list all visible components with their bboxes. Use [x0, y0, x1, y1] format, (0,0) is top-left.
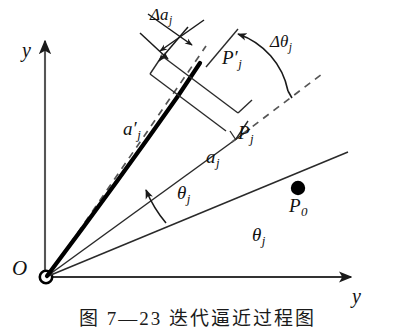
theta-upper-letter: θ [177, 182, 186, 203]
Pj-subscript: j [250, 131, 254, 146]
delta-theta-label: Δθj [270, 33, 292, 53]
origin-label: O [12, 258, 27, 279]
aj-subscript: j [216, 155, 220, 170]
axis-group [45, 41, 351, 277]
radius-line-Pj [238, 100, 252, 113]
aj-letter: a [206, 146, 216, 167]
theta-upper-subscript: j [187, 191, 191, 206]
delta-a-text: Δa [150, 5, 168, 24]
P0-letter: P [289, 195, 301, 216]
segment-a-prime-j-label: a′j [123, 119, 141, 142]
theta-j-arc [146, 190, 166, 223]
theta-lower-letter: θ [252, 224, 261, 245]
segment-a-j-label: aj [206, 147, 220, 170]
delta-theta-arc-tail [288, 91, 292, 98]
geometry-diagram [0, 0, 395, 327]
tick-at-Pj [230, 131, 236, 140]
angle-theta-j-lower-label: θj [252, 225, 265, 248]
point-P0-label: P0 [289, 196, 308, 219]
a-prime-subscript: j [137, 127, 141, 142]
figure-container: y y O Δaj Δθj P′j a′j Pj aj P0 θj θj 图 7… [0, 0, 395, 327]
point-P-prime-j-label: P′j [222, 48, 242, 71]
P-prime-letter: P [222, 47, 234, 68]
delta-a-arrow-bottom2 [140, 33, 168, 59]
y-axis-vertical-label: y [22, 40, 31, 60]
delta-a-subscript: j [169, 14, 172, 27]
a-prime-letter: a [123, 118, 133, 139]
P0-subscript: 0 [301, 204, 307, 219]
Pj-letter: P [238, 122, 250, 143]
P-prime-subscript: j [238, 56, 242, 71]
figure-caption: 图 7—23 迭代逼近过程图 [0, 303, 395, 327]
point-P0-marker [291, 181, 305, 195]
point-Pj-label: Pj [238, 123, 254, 146]
angle-theta-j-upper-label: θj [177, 183, 190, 206]
delta-a-label: Δaj [150, 6, 172, 26]
delta-theta-subscript: j [289, 41, 292, 54]
theta-lower-subscript: j [262, 233, 266, 248]
delta-theta-text: Δθ [270, 32, 288, 51]
